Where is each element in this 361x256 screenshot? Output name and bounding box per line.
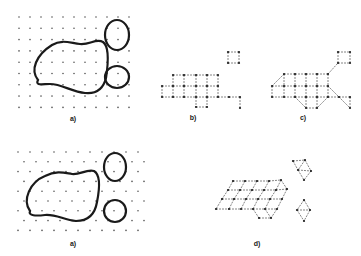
lattice-dot	[84, 61, 86, 63]
graph-node	[296, 209, 298, 211]
lattice-dot	[95, 95, 97, 97]
lattice-dot	[143, 181, 145, 183]
panel-label-a-top: a)	[70, 115, 76, 122]
lattice-dot	[95, 181, 97, 183]
lattice-dot	[137, 171, 139, 173]
graph-edge	[270, 190, 276, 199]
graph-edge	[271, 209, 277, 218]
lattice-dot	[59, 220, 61, 222]
panel-label-a-bottom: a)	[70, 240, 76, 247]
graph-node	[239, 96, 241, 98]
graph-node	[172, 96, 174, 98]
lattice-dot	[73, 28, 75, 30]
graph-node	[275, 189, 277, 191]
graph-node	[239, 107, 241, 109]
graph-edge	[241, 199, 246, 209]
graph-node	[251, 189, 253, 191]
lattice-dot	[18, 50, 20, 52]
graph-node	[244, 180, 246, 182]
lattice-dot	[83, 200, 85, 202]
lattice-dot	[62, 95, 64, 97]
panel-a-bottom	[17, 151, 145, 231]
graph-node	[327, 85, 329, 87]
lattice-dot	[53, 151, 55, 153]
lattice-dot	[73, 107, 75, 109]
lattice-dot	[73, 73, 75, 75]
lattice-dot	[106, 95, 108, 97]
lattice-dot	[113, 210, 115, 212]
lattice-dot	[107, 181, 109, 183]
graph-edge	[246, 190, 252, 199]
lattice-dot	[84, 28, 86, 30]
lattice-dot	[101, 210, 103, 212]
lattice-dot	[18, 107, 20, 109]
lattice-dot	[65, 190, 67, 192]
graph-node	[195, 85, 197, 87]
graph-node	[217, 74, 219, 76]
graph-edge	[328, 63, 338, 74]
lattice-dot	[128, 107, 130, 109]
graph-node	[271, 96, 273, 98]
lattice-dot	[95, 84, 97, 86]
panel-label-c: c)	[300, 114, 306, 121]
graph-node	[215, 208, 217, 210]
lattice-dot	[128, 16, 130, 18]
graph-edge	[216, 199, 222, 209]
graph-node	[305, 85, 307, 87]
graph-node	[316, 96, 318, 98]
lattice-dot	[59, 181, 61, 183]
graph-edge	[317, 97, 328, 108]
lattice-dot	[113, 230, 115, 232]
graph-node	[238, 51, 240, 53]
graph-edge	[276, 180, 281, 190]
lattice-dot	[117, 39, 119, 41]
lattice-dot	[51, 28, 53, 30]
lattice-dot	[77, 210, 79, 212]
lattice-dot	[40, 28, 42, 30]
lattice-dot	[128, 84, 130, 86]
lattice-dot	[65, 210, 67, 212]
lattice-dot	[18, 73, 20, 75]
graph-node	[227, 62, 229, 64]
lattice-dot	[29, 73, 31, 75]
graph-node	[183, 74, 185, 76]
lattice-dot	[23, 181, 25, 183]
lattice-dot	[35, 161, 37, 163]
lattice-dot	[17, 230, 19, 232]
lattice-dot	[73, 39, 75, 41]
lattice-dot	[119, 161, 121, 163]
lattice-dot	[62, 39, 64, 41]
graph-edge	[234, 190, 240, 199]
graph-node	[228, 208, 230, 210]
region-large-blob	[27, 171, 99, 221]
panel-c	[271, 51, 351, 109]
lattice-dot	[62, 28, 64, 30]
lattice-dot	[137, 210, 139, 212]
lattice-dot	[18, 95, 20, 97]
lattice-dot	[59, 161, 61, 163]
lattice-dot	[35, 200, 37, 202]
lattice-dot	[95, 28, 97, 30]
graph-node	[303, 179, 305, 181]
graph-node	[217, 85, 219, 87]
graph-node	[232, 180, 234, 182]
lattice-dot	[73, 16, 75, 18]
graph-node	[337, 51, 339, 53]
lattice-dot	[65, 230, 67, 232]
graph-edge	[293, 161, 298, 170]
lattice-dot	[101, 151, 103, 153]
lattice-dot	[29, 39, 31, 41]
lattice-dot	[101, 230, 103, 232]
lattice-dot	[83, 161, 85, 163]
graph-edge	[295, 97, 306, 108]
graph-node	[268, 180, 270, 182]
lattice-dot	[73, 95, 75, 97]
graph-edge	[265, 209, 271, 218]
lattice-dot	[23, 200, 25, 202]
region-upper-small-blob	[105, 20, 129, 50]
graph-node	[264, 208, 266, 210]
graph-node	[183, 96, 185, 98]
lattice-dot	[62, 16, 64, 18]
lattice-dot	[29, 61, 31, 63]
lattice-dot	[17, 190, 19, 192]
